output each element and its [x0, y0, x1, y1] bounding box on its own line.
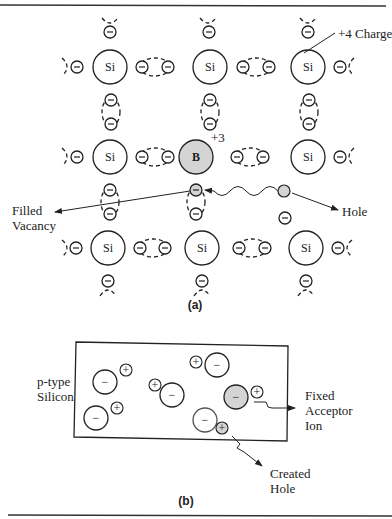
electron-movement-arrow [205, 187, 278, 196]
caption-b: (b) [178, 494, 193, 508]
top-rule [0, 5, 386, 6]
svg-text:+: + [193, 355, 200, 369]
svg-text:Si: Si [103, 241, 114, 255]
material-label-2: Silicon [37, 389, 74, 404]
filled-vacancy-electron [190, 184, 202, 196]
svg-text:+: + [254, 385, 261, 399]
bottom-rule [8, 515, 392, 516]
svg-text:Si: Si [303, 60, 314, 74]
filled-vacancy-label-2: Vacancy [12, 218, 57, 233]
svg-text:+: + [152, 378, 159, 392]
created-hole-label-2: Hole [270, 481, 296, 496]
svg-text:Si: Si [105, 150, 116, 164]
svg-text:−: − [202, 413, 209, 427]
acceptor-label-3: Ion [305, 418, 323, 433]
svg-text:−: − [102, 375, 109, 389]
svg-text:−: − [93, 411, 100, 425]
svg-text:+: + [123, 363, 130, 377]
hole-circle [278, 185, 290, 197]
created-hole-label-1: Created [270, 466, 311, 481]
svg-text:+: + [114, 401, 121, 415]
filled-vacancy-arrow [55, 191, 190, 212]
boron-charge-label: +3 [211, 130, 225, 145]
svg-text:Si: Si [301, 241, 312, 255]
semiconductor-doping-figure: Si Si Si Si B Si Si Si Si +4 Charge +3 F… [0, 0, 392, 519]
svg-text:−: − [233, 390, 240, 404]
charge-label: +4 Charge [338, 26, 392, 41]
svg-text:+: + [219, 421, 226, 435]
hole-arrow [292, 193, 338, 210]
material-label-1: p-type [37, 374, 70, 389]
svg-text:B: B [192, 150, 200, 164]
svg-text:Si: Si [303, 150, 314, 164]
acceptor-label-2: Acceptor [305, 403, 353, 418]
svg-text:Si: Si [105, 60, 116, 74]
svg-text:−: − [169, 388, 176, 402]
svg-text:Si: Si [205, 60, 216, 74]
filled-vacancy-label-1: Filled [12, 203, 43, 218]
hole-label: Hole [342, 204, 368, 219]
svg-text:−: − [214, 358, 221, 372]
caption-a: (a) [188, 298, 203, 312]
acceptor-label-1: Fixed [305, 388, 335, 403]
svg-text:Si: Si [197, 241, 208, 255]
